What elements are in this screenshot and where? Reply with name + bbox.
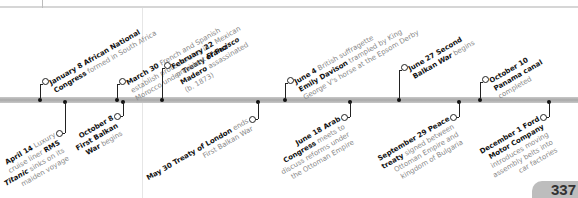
event-stem: [350, 102, 351, 117]
event-label-october-10: October 10Panama canalcompleted: [488, 51, 549, 102]
event-stem: [258, 102, 259, 119]
event-marker-dot: [397, 98, 401, 102]
event-marker-dot: [160, 98, 164, 102]
event-stem: [40, 84, 41, 98]
event-label-october-8: October 8First BalkanWar begins: [70, 114, 125, 161]
event-stem: [65, 102, 66, 133]
event-label-september-29: September 29 Peacetreaty signed betweenO…: [376, 115, 465, 187]
page-number: 337: [532, 181, 578, 198]
event-stem: [123, 102, 124, 116]
event-marker-dot: [38, 98, 42, 102]
event-marker-ring: [540, 114, 547, 121]
event-marker-ring: [450, 114, 457, 121]
event-marker-ring: [114, 113, 121, 120]
event-stem: [117, 84, 118, 98]
timeline-bar: [0, 97, 578, 103]
event-stem: [399, 70, 400, 98]
event-label-june-27: June 27 SecondBalkan War begins: [407, 31, 477, 82]
event-stem: [162, 68, 163, 98]
event-marker-dot: [283, 98, 287, 102]
event-stem: [459, 102, 460, 117]
event-marker-ring: [56, 130, 63, 137]
event-label-june-4: June 4 British suffragetteEmily Davison …: [293, 13, 421, 102]
event-marker-dot: [115, 98, 119, 102]
event-label-december-1: December 1 FordMotor Companyintroduces m…: [478, 115, 560, 188]
event-label-april-14: April 14 Luxurycruise liner RMSTitanic s…: [0, 131, 71, 196]
event-label-may-30: May 30 Treaty of London endsFirst Balkan…: [145, 117, 255, 191]
event-stem: [480, 82, 481, 98]
event-marker-ring: [341, 114, 348, 121]
top-rule: [0, 6, 578, 8]
event-stem: [285, 83, 286, 98]
event-stem: [549, 102, 550, 117]
top-divider: [42, 0, 43, 8]
event-marker-ring: [249, 116, 256, 123]
event-label-june-18: June 18 ArabCongress meets todiscuss ref…: [271, 115, 356, 185]
event-marker-dot: [478, 98, 482, 102]
